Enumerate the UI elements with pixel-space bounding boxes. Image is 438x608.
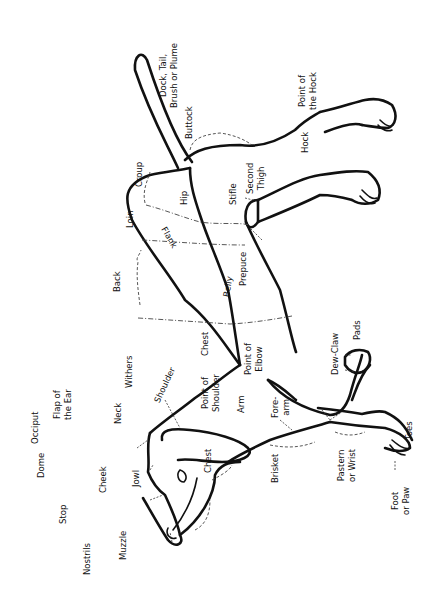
label-loin: Loin: [125, 210, 136, 228]
label-pastern: Pastern or Wrist: [336, 449, 358, 482]
label-tail: Dock, Tail, Brush or Plume: [158, 43, 180, 108]
label-nostrils: Nostrils: [82, 543, 93, 575]
pastern-brace: [335, 432, 365, 435]
label-arm: Arm: [236, 396, 247, 413]
buttock-brace: [190, 133, 252, 150]
eye: [178, 470, 186, 482]
label-flap-of-ear: Flap of the Ear: [52, 389, 74, 420]
stop-pointer: [150, 495, 163, 500]
hind-leg-near: [258, 171, 380, 204]
label-cheek: Cheek: [98, 466, 109, 493]
label-stifle: Stifle: [228, 183, 239, 205]
loin-flank-boundary: [142, 240, 245, 245]
dog-anatomy-diagram: Occiput Dome Stop Nostrils Muzzle Cheek …: [0, 0, 438, 608]
label-second-thigh: Second Thigh: [245, 163, 267, 194]
nostril: [167, 528, 176, 538]
dome-pointer: [150, 465, 153, 470]
front-leg-near: [330, 422, 410, 451]
label-occiput: Occiput: [30, 411, 41, 444]
label-point-of-hock: Point of the Hock: [297, 72, 319, 110]
shoulder-point-pointer: [280, 420, 292, 430]
label-point-of-shoulder: Point of Shoulder: [200, 374, 222, 412]
ear-pointer: [165, 400, 180, 428]
back-brace: [137, 250, 141, 305]
stifle-pointer: [245, 198, 253, 200]
label-buttock: Buttock: [184, 106, 195, 139]
label-stop: Stop: [58, 505, 69, 524]
front-leg-near-inner: [318, 408, 412, 440]
label-brisket: Brisket: [270, 454, 281, 483]
belly-line: [246, 222, 296, 352]
label-foot: Foot or Paw: [390, 487, 412, 515]
label-jowl: Jowl: [131, 470, 142, 487]
label-chest: Chest: [200, 332, 211, 356]
label-dew-claw: Dew-Claw: [330, 333, 341, 375]
chest-back-boundary: [138, 316, 292, 324]
label-hock: Hock: [300, 132, 311, 153]
label-point-of-elbow: Point of Elbow: [243, 343, 265, 375]
hind-leg-near-inner: [258, 195, 352, 222]
label-withers: Withers: [124, 356, 135, 388]
label-forearm: Fore- arm: [270, 397, 292, 418]
occiput-pointer: [137, 440, 148, 448]
label-neck: Neck: [113, 403, 124, 424]
hind-leg-far-inner: [325, 124, 362, 132]
label-toes: Toes: [404, 421, 415, 440]
label-dome: Dome: [36, 453, 47, 478]
label-back: Back: [112, 271, 123, 292]
chest-brace: [270, 442, 315, 447]
label-muzzle: Muzzle: [118, 531, 129, 560]
label-prepuce: Prepuce: [238, 252, 249, 286]
label-hip: Hip: [179, 191, 190, 205]
label-chest-front: Chest: [203, 449, 214, 473]
label-pads: Pads: [352, 320, 363, 340]
label-croup: Croup: [134, 162, 145, 187]
